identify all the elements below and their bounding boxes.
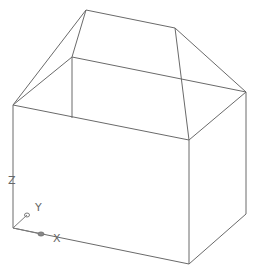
ucs-y-label: Y: [34, 201, 42, 214]
ucs-x-axis: [13, 228, 41, 234]
ucs-x-label: X: [53, 232, 61, 245]
wireframe-model: Y X Z: [0, 0, 256, 274]
ucs-z-label: Z: [8, 174, 16, 187]
top-right-edge: [189, 92, 246, 140]
drawing-canvas[interactable]: Y X Z: [0, 0, 256, 274]
roof-back-left-edge: [72, 10, 86, 57]
top-front-edge: [13, 105, 189, 140]
roof-ridge-edge: [86, 10, 175, 28]
top-back-edge: [72, 57, 246, 92]
roof-right-edge: [175, 28, 246, 92]
ucs-x-marker: [38, 232, 44, 236]
bottom-right-edge: [189, 214, 246, 264]
roof-front-right-edge: [175, 28, 189, 140]
top-left-edge: [13, 57, 72, 105]
ucs-icon: Y X Z: [8, 174, 61, 245]
